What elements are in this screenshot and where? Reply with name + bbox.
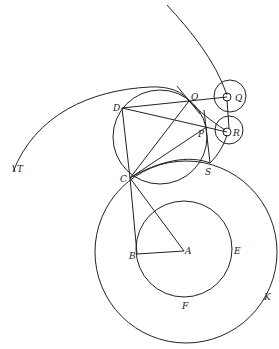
curve-T xyxy=(13,87,189,172)
label-T: T xyxy=(17,164,24,174)
label-E: E xyxy=(233,246,241,256)
label-R: R xyxy=(232,128,240,138)
geometry-diagram: T D O Q R P S C B A E F K xyxy=(0,0,279,349)
label-S: S xyxy=(205,167,211,177)
label-Q: Q xyxy=(235,93,243,103)
segment-Q-R xyxy=(227,100,229,128)
line-BA xyxy=(137,251,184,254)
label-P: P xyxy=(197,129,205,139)
line-P-S xyxy=(204,110,210,163)
line-DC xyxy=(122,108,130,178)
spiral-curve-top xyxy=(167,5,227,95)
inner-circle-EF xyxy=(136,201,232,297)
line-CP xyxy=(130,128,205,178)
label-A: A xyxy=(184,246,192,256)
line-DO xyxy=(122,101,189,108)
label-O: O xyxy=(191,92,199,102)
label-F: F xyxy=(181,301,189,311)
label-B: B xyxy=(128,251,136,261)
label-K: K xyxy=(263,292,272,302)
line-CB xyxy=(130,178,137,254)
diagram-canvas: T D O Q R P S C B A E F K xyxy=(0,0,279,349)
line-CA xyxy=(130,178,184,251)
label-D: D xyxy=(112,103,120,113)
label-C: C xyxy=(120,174,127,184)
line-CO xyxy=(130,101,189,178)
